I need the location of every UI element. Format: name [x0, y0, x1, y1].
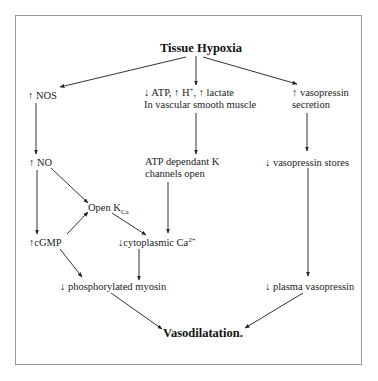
- arrows-layer: [0, 0, 378, 381]
- node-plasma-vaso: ↓ plasma vasopressin: [265, 281, 354, 293]
- node-cyto-ca: ↓cytoplasmic Ca2+: [118, 237, 196, 249]
- node-myosin: ↓ phosphorylated myosin: [60, 281, 166, 293]
- node-tissue-hypoxia: Tissue Hypoxia: [160, 42, 242, 54]
- edge-title-nos: [60, 57, 186, 87]
- node-cgmp: ↑cGMP: [29, 237, 62, 249]
- vaso-text-line2: secretion: [292, 99, 330, 110]
- cytoca-sup: 2+: [188, 236, 195, 244]
- node-vaso-secretion: ↑ vasopressin secretion: [292, 87, 349, 111]
- katp-text-line1: ATP dependant K: [145, 156, 219, 167]
- edge-myosin-outcome: [111, 293, 162, 329]
- node-katp: ATP dependant K channels open: [145, 156, 219, 180]
- edge-title-vaso: [203, 57, 297, 84]
- atp-text-a: ↓ ATP, ↑ H: [144, 87, 190, 98]
- katp-text-line2: channels open: [145, 168, 205, 179]
- edge-cgmp-myosin: [60, 249, 82, 277]
- node-vasodilatation: Vasodilatation.: [163, 327, 243, 339]
- node-vaso-stores: ↓ vasopressin stores: [265, 157, 349, 169]
- openk-sub: Ca: [121, 208, 129, 216]
- cytoca-text: ↓cytoplasmic Ca: [118, 237, 188, 248]
- edge-cgmp-openk: [67, 212, 88, 234]
- edge-no-openk: [51, 168, 88, 203]
- node-nos: ↑ NOS: [28, 90, 57, 102]
- node-no: ↑ NO: [29, 157, 52, 169]
- edge-plasma-outcome: [245, 293, 303, 328]
- atp-text-b: , ↑ lactate: [193, 87, 234, 98]
- node-atp: ↓ ATP, ↑ H+, ↑ lactate In vascular smoot…: [144, 87, 256, 111]
- node-open-kca: Open KCa: [88, 202, 129, 214]
- openk-text: Open K: [88, 202, 121, 213]
- vaso-text-line1: ↑ vasopressin: [292, 87, 349, 98]
- atp-text-line2: In vascular smooth muscle: [144, 99, 256, 110]
- edge-openk-cytoca: [112, 213, 146, 235]
